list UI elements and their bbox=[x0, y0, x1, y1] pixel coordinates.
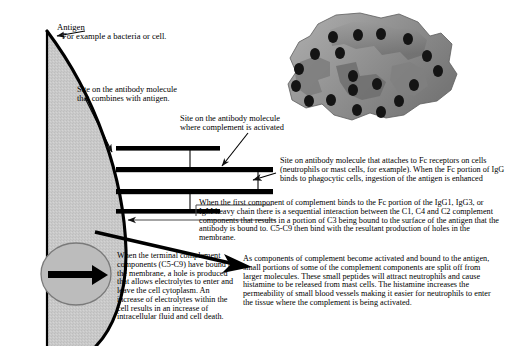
antibody-arm-upper bbox=[116, 146, 220, 151]
fc-leader bbox=[253, 173, 276, 180]
antigen-binding-site-line1: Site on the antibody molecule bbox=[77, 85, 177, 94]
membrane-pore-inset bbox=[41, 243, 111, 305]
fc-receptor-paragraph: Site on antibody molecule that attaches … bbox=[280, 157, 508, 183]
antibody-heavy-chain-upper bbox=[116, 167, 273, 172]
activated-leader bbox=[222, 133, 248, 166]
complement-activation-site-line2: where complement is activated bbox=[180, 123, 284, 132]
first-complement-component-paragraph: When the first component of complement b… bbox=[199, 199, 499, 243]
antigen-binding-site-line2: that combines with antigen. bbox=[77, 94, 177, 103]
complement-activation-paragraph: As components of complement become activ… bbox=[243, 255, 501, 308]
antigen-subtitle: For example a bacteria or cell. bbox=[62, 32, 167, 41]
diagram-canvas: Antigen For example a bacteria or cell. … bbox=[0, 0, 511, 346]
membrane-with-pores bbox=[288, 13, 457, 120]
complement-activation-site-label: Site on the antibody molecule where comp… bbox=[180, 114, 284, 132]
complement-activation-site-line1: Site on the antibody molecule bbox=[180, 114, 284, 123]
antibody-heavy-chain-lower bbox=[116, 189, 273, 194]
terminal-complement-paragraph: When the terminal complement components … bbox=[117, 252, 237, 322]
antigen-binding-site-label: Site on the antibody molecule that combi… bbox=[77, 85, 177, 103]
